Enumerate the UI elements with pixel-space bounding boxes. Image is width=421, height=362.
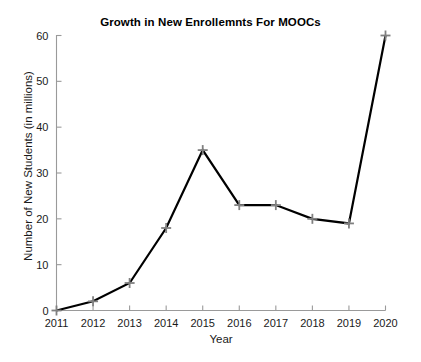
x-tick-label: 2014 bbox=[154, 317, 178, 329]
x-tick-label: 2017 bbox=[264, 317, 288, 329]
data-markers bbox=[52, 31, 391, 316]
data-point-marker bbox=[52, 306, 62, 316]
x-tick-label: 2020 bbox=[373, 317, 397, 329]
x-tick-label: 2012 bbox=[81, 317, 105, 329]
data-series-new-students bbox=[57, 36, 386, 311]
x-tick-label: 2011 bbox=[45, 317, 69, 329]
x-axis: 2011201220132014201520162017201820192020 bbox=[45, 306, 398, 329]
data-point-marker bbox=[344, 218, 354, 228]
y-tick-label: 10 bbox=[36, 259, 48, 271]
y-tick-label: 50 bbox=[36, 75, 48, 87]
x-tick-label: 2018 bbox=[300, 317, 324, 329]
data-point-marker bbox=[271, 200, 281, 210]
y-axis: 0102030405060 bbox=[36, 30, 61, 317]
x-tick-label: 2013 bbox=[117, 317, 141, 329]
chart-figure: Growth in New Enrollemnts For MOOCs Numb… bbox=[0, 0, 421, 362]
plot-area: 0102030405060 20112012201320142015201620… bbox=[0, 0, 421, 362]
x-tick-label: 2019 bbox=[337, 317, 361, 329]
data-point-marker bbox=[307, 214, 317, 224]
x-tick-label: 2016 bbox=[227, 317, 251, 329]
y-tick-label: 0 bbox=[42, 305, 48, 317]
y-tick-label: 40 bbox=[36, 121, 48, 133]
y-tick-label: 30 bbox=[36, 167, 48, 179]
data-point-marker bbox=[381, 31, 391, 41]
x-tick-label: 2015 bbox=[190, 317, 214, 329]
y-tick-label: 20 bbox=[36, 213, 48, 225]
data-point-marker bbox=[88, 296, 98, 306]
y-tick-label: 60 bbox=[36, 30, 48, 42]
